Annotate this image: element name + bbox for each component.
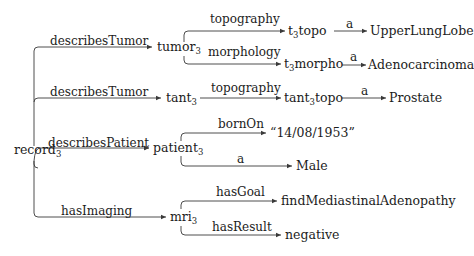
edge-label-a-male: a: [237, 153, 244, 165]
edge-label-describes-tumor-2: describesTumor: [50, 86, 148, 98]
node-mri: mri3: [170, 211, 197, 224]
node-tumor: tumor3: [157, 41, 201, 54]
node-mri-subscript: 3: [192, 216, 197, 226]
node-tant3topo: tant3topo: [284, 92, 343, 105]
edge-label-morphology: morphology: [208, 46, 281, 58]
node-t3topo-subscript: 3: [293, 30, 298, 40]
node-tant3topo-suffix: topo: [315, 90, 343, 105]
edge-label-born-on: bornOn: [218, 118, 264, 130]
node-birth-date: “14/08/1953”: [270, 127, 355, 140]
node-tant3topo-prefix: tant: [284, 90, 310, 105]
node-negative: negative: [285, 229, 339, 242]
node-upper-lung-lobe: UpperLungLobe: [370, 25, 474, 38]
node-tumor-label: tumor: [157, 39, 195, 54]
node-t3morpho-subscript: 3: [289, 63, 294, 73]
node-patient-label: patient: [153, 140, 198, 155]
edge-label-topography-tant: topography: [211, 82, 281, 94]
edge-label-describes-tumor-1: describesTumor: [50, 35, 148, 47]
edge-label-has-result: hasResult: [212, 221, 272, 233]
node-patient: patient3: [153, 142, 203, 155]
node-t3morpho: t3morpho: [284, 58, 343, 71]
edge-hasGoal: [181, 201, 277, 209]
node-mri-label: mri: [170, 209, 192, 224]
node-t3topo-suffix: topo: [298, 23, 326, 38]
node-patient-subscript: 3: [198, 147, 203, 157]
node-tant-subscript: 3: [192, 97, 197, 107]
node-tant3topo-subscript: 3: [310, 97, 315, 107]
edge-label-has-goal: hasGoal: [216, 186, 265, 198]
edge-label-a-prostate: a: [361, 85, 368, 97]
node-record-subscript: 3: [56, 149, 61, 159]
edge-label-a-adeno: a: [350, 51, 357, 63]
node-tant: tant3: [166, 92, 197, 105]
edge-label-topography-tumor: topography: [210, 13, 280, 25]
node-male: Male: [296, 160, 328, 173]
edge-label-has-imaging: hasImaging: [61, 205, 132, 217]
node-tumor-subscript: 3: [195, 46, 200, 56]
node-t3topo: t3topo: [288, 25, 327, 38]
node-t3morpho-suffix: morpho: [294, 56, 343, 71]
node-prostate: Prostate: [389, 92, 442, 105]
edge-describesPatient: [34, 161, 38, 168]
edge-label-a-upperlung: a: [346, 18, 353, 30]
node-find-mediastinal-adenopathy: findMediastinalAdenopathy: [281, 195, 456, 208]
node-tant-label: tant: [166, 90, 192, 105]
node-adenocarcinoma: Adenocarcinoma: [368, 59, 474, 72]
edge-label-describes-patient: describesPatient: [48, 137, 149, 149]
